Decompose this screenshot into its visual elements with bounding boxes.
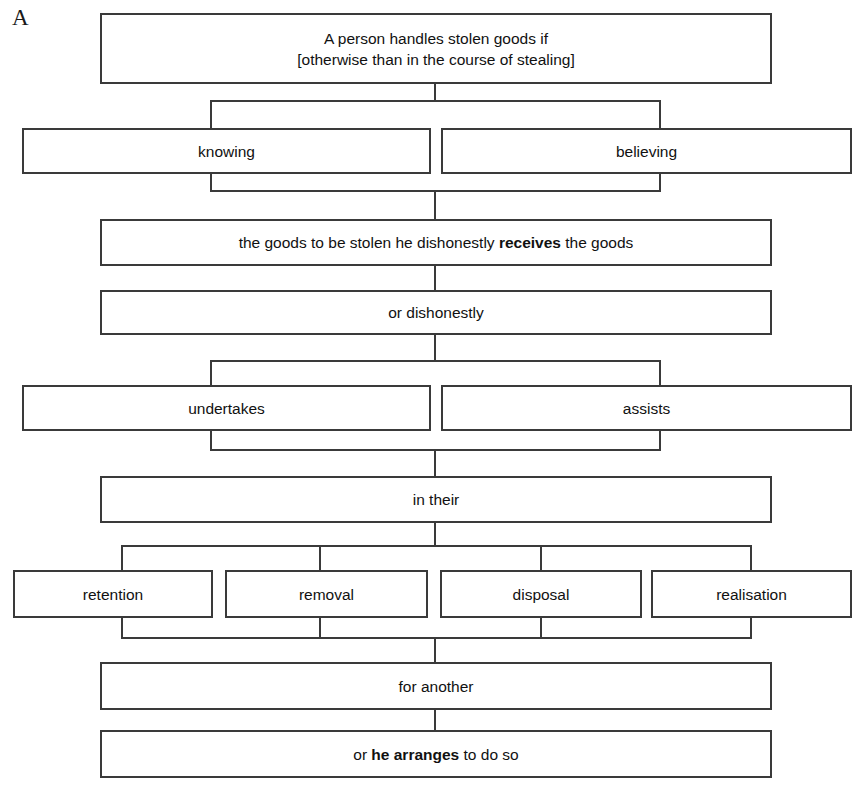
node-in-their: in their	[100, 476, 772, 523]
connector-split1-left-drop	[210, 100, 212, 129]
node-realisation-label: realisation	[710, 584, 793, 605]
connector-merge4-rise-4	[750, 618, 752, 639]
node-for-another: for another	[100, 662, 772, 710]
node-removal: removal	[225, 570, 428, 618]
node-assists-label: assists	[617, 398, 676, 419]
node-arranges: or he arranges to do so	[100, 730, 772, 778]
connector-split4-bar	[121, 545, 752, 547]
node-arranges-prefix: or	[353, 746, 371, 763]
connector-merge4-down	[434, 637, 436, 664]
connector-split1-right-drop	[659, 100, 661, 129]
connector-ordishonestly-down	[434, 335, 436, 361]
node-or-dishonestly: or dishonestly	[100, 290, 772, 335]
panel-label-a: A	[12, 6, 29, 29]
node-or-dishonestly-label: or dishonestly	[382, 302, 490, 323]
node-receives-suffix: the goods	[561, 234, 633, 251]
node-for-another-label: for another	[393, 676, 480, 697]
connector-split2-left-drop	[210, 360, 212, 386]
node-retention: retention	[13, 570, 213, 618]
node-root-line2: [otherwise than in the course of stealin…	[297, 51, 574, 68]
node-root-line1: A person handles stolen goods if	[324, 30, 548, 47]
node-root: A person handles stolen goods if [otherw…	[100, 13, 772, 84]
node-retention-label: retention	[77, 584, 149, 605]
connector-intheir-down	[434, 523, 436, 546]
node-knowing: knowing	[22, 128, 431, 174]
node-arranges-bold: he arranges	[371, 746, 459, 763]
node-disposal: disposal	[440, 570, 642, 618]
connector-merge2-left-rise	[210, 431, 212, 450]
connector-root-down	[434, 84, 436, 101]
connector-split2-right-drop	[659, 360, 661, 386]
flowchart-figure: A A person handles stolen goods if [othe…	[0, 0, 865, 792]
connector-split1-bar	[210, 100, 661, 102]
node-knowing-label: knowing	[192, 141, 261, 162]
node-arranges-text: or he arranges to do so	[347, 744, 524, 765]
connector-split4-drop-1	[121, 545, 123, 572]
connector-merge1-right-rise	[659, 174, 661, 191]
node-receives: the goods to be stolen he dishonestly re…	[100, 219, 772, 266]
node-believing: believing	[441, 128, 852, 174]
connector-split4-drop-3	[540, 545, 542, 572]
connector-merge1-down	[434, 190, 436, 220]
node-believing-label: believing	[610, 141, 683, 162]
node-assists: assists	[441, 385, 852, 431]
connector-split4-drop-4	[750, 545, 752, 572]
connector-split2-bar	[210, 360, 661, 362]
node-in-their-label: in their	[407, 489, 466, 510]
node-disposal-label: disposal	[507, 584, 576, 605]
connector-receives-down	[434, 266, 436, 291]
connector-merge4-rise-2	[319, 618, 321, 639]
connector-merge4-rise-3	[540, 618, 542, 639]
connector-merge2-down	[434, 449, 436, 477]
connector-merge4-bar	[121, 637, 752, 639]
connector-merge4-rise-1	[121, 618, 123, 639]
node-undertakes-label: undertakes	[182, 398, 271, 419]
node-receives-prefix: the goods to be stolen he dishonestly	[239, 234, 499, 251]
node-undertakes: undertakes	[22, 385, 431, 431]
connector-merge2-right-rise	[659, 431, 661, 450]
connector-merge1-left-rise	[210, 174, 212, 191]
node-receives-bold: receives	[499, 234, 561, 251]
connector-split4-drop-2	[319, 545, 321, 572]
node-receives-text: the goods to be stolen he dishonestly re…	[233, 232, 640, 253]
node-realisation: realisation	[651, 570, 852, 618]
node-root-text: A person handles stolen goods if [otherw…	[291, 28, 580, 70]
node-arranges-suffix: to do so	[459, 746, 518, 763]
node-removal-label: removal	[293, 584, 360, 605]
connector-foranother-down	[434, 710, 436, 731]
